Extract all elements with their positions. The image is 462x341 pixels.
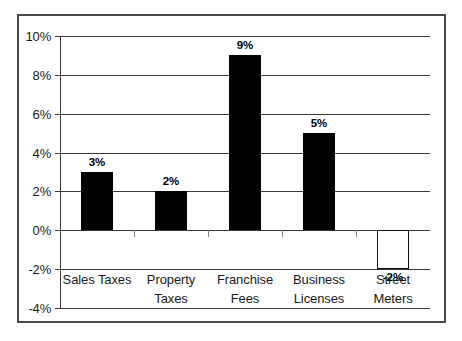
y-axis-tick-label: 10%	[26, 29, 51, 44]
y-axis-tick-label: 2%	[33, 184, 51, 199]
bar[interactable]	[81, 172, 113, 230]
category-tick	[208, 230, 209, 237]
category-label: Property Taxes	[134, 270, 208, 308]
bar[interactable]	[229, 55, 261, 230]
y-axis-tick-label: 0%	[33, 223, 51, 238]
y-axis-tick	[55, 230, 60, 231]
bar-value-label: 2%	[141, 175, 201, 187]
bar[interactable]	[155, 191, 187, 230]
category-label: Franchise Fees	[208, 270, 282, 308]
category-label: Sales Taxes	[60, 270, 134, 289]
y-axis-tick	[55, 114, 60, 115]
bar[interactable]	[377, 230, 409, 269]
y-axis-tick	[55, 191, 60, 192]
bar-value-label: 3%	[67, 156, 127, 168]
chart-frame: 10%8%6%4%2%0%-2%-4% 3%2%9%5%-2% Sales Ta…	[17, 14, 446, 323]
y-axis-tick	[55, 153, 60, 154]
y-axis-tick-label: 4%	[33, 145, 51, 160]
category-label: Street Meters	[356, 270, 430, 308]
bar-value-label: 9%	[215, 39, 275, 51]
category-axis-labels: Sales TaxesProperty TaxesFranchise FeesB…	[60, 270, 430, 326]
y-axis-tick-label: 8%	[33, 67, 51, 82]
gridline	[60, 230, 430, 231]
y-axis-tick-label: -2%	[28, 262, 51, 277]
bar[interactable]	[303, 133, 335, 230]
bar-value-label: 5%	[289, 117, 349, 129]
category-tick	[134, 230, 135, 237]
category-tick	[282, 230, 283, 237]
y-axis-tick-label: 6%	[33, 106, 51, 121]
y-axis-tick-label: -4%	[28, 301, 51, 316]
category-label: Business Licenses	[282, 270, 356, 308]
plot-area: 10%8%6%4%2%0%-2%-4% 3%2%9%5%-2%	[60, 36, 430, 308]
category-tick	[356, 230, 357, 237]
gridline	[60, 36, 430, 37]
y-axis-tick	[55, 75, 60, 76]
y-axis-line	[60, 36, 61, 308]
y-axis-tick	[55, 36, 60, 37]
